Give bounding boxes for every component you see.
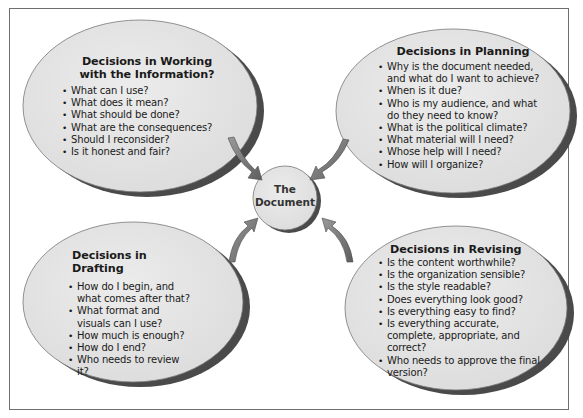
list-item: Is everything accurate, complete, approp… bbox=[378, 318, 546, 355]
arrow-drafting-to-center bbox=[229, 218, 258, 262]
list-item: Who is my audience, and what do they nee… bbox=[378, 98, 548, 122]
bubble-working-list: What can I use? What does it mean? What … bbox=[62, 85, 232, 158]
bubble-drafting: Decisions in Drafting How do I begin, an… bbox=[68, 249, 193, 379]
bubble-working: Decisions in Working with the Informatio… bbox=[62, 55, 232, 158]
list-item: Who needs to review it? bbox=[68, 354, 193, 378]
bubble-revising-title: Decisions in Revising bbox=[378, 243, 546, 256]
list-item: Is it honest and fair? bbox=[62, 146, 232, 158]
list-item: What are the consequences? bbox=[62, 122, 232, 134]
bubble-planning-title: Decisions in Planning bbox=[378, 45, 548, 58]
bubble-revising: Decisions in Revising Is the content wor… bbox=[378, 243, 546, 379]
bubble-planning: Decisions in Planning Why is the documen… bbox=[378, 45, 548, 171]
list-item: How do I end? bbox=[68, 342, 193, 354]
bubble-drafting-title: Decisions in Drafting bbox=[68, 249, 193, 275]
list-item: What does it mean? bbox=[62, 97, 232, 109]
bubble-revising-list: Is the content worthwhile? Is the organi… bbox=[378, 257, 546, 379]
title-line1: Decisions in Working bbox=[82, 55, 212, 68]
center-label-line2: Document bbox=[252, 196, 318, 209]
list-item: Does everything look good? bbox=[378, 294, 546, 306]
list-item: Why is the document needed, and what do … bbox=[378, 61, 548, 85]
arrow-planning-to-center bbox=[310, 139, 349, 180]
title-line2: with the Information? bbox=[80, 68, 215, 81]
list-item: Whose help will I need? bbox=[378, 146, 548, 158]
list-item: Is everything easy to find? bbox=[378, 306, 546, 318]
list-item: What material will I need? bbox=[378, 134, 548, 146]
center-document-label: The Document bbox=[252, 183, 318, 208]
list-item: How will I organize? bbox=[378, 159, 548, 171]
list-item: When is it due? bbox=[378, 85, 548, 97]
arrow-revising-to-center bbox=[322, 218, 353, 262]
list-item: Who needs to approve the final version? bbox=[378, 355, 546, 379]
list-item: What format and visuals can I use? bbox=[68, 305, 193, 329]
list-item: What should be done? bbox=[62, 109, 232, 121]
bubble-planning-list: Why is the document needed, and what do … bbox=[378, 61, 548, 171]
list-item: What can I use? bbox=[62, 85, 232, 97]
bubble-drafting-list: How do I begin, and what comes after tha… bbox=[68, 281, 193, 379]
list-item: Is the organization sensible? bbox=[378, 269, 546, 281]
list-item: What is the political climate? bbox=[378, 122, 548, 134]
list-item: How do I begin, and what comes after tha… bbox=[68, 281, 193, 305]
list-item: Should I reconsider? bbox=[62, 134, 232, 146]
center-label-line1: The bbox=[252, 183, 318, 196]
list-item: Is the content worthwhile? bbox=[378, 257, 546, 269]
list-item: Is the style readable? bbox=[378, 281, 546, 293]
bubble-working-title: Decisions in Working with the Informatio… bbox=[62, 55, 232, 81]
list-item: How much is enough? bbox=[68, 330, 193, 342]
